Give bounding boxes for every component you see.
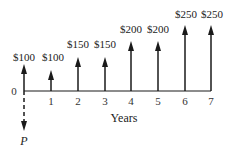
amount-year-6: $250 xyxy=(175,8,198,20)
tick-label-7: 7 xyxy=(208,95,214,107)
tick-label-6: 6 xyxy=(182,95,188,107)
axis-title: Years xyxy=(111,111,138,125)
cash-flow-diagram: 0 P $100 $100 $150 $150 $200 $200 $250 $… xyxy=(0,0,231,150)
amount-year-2: $150 xyxy=(67,38,90,50)
amount-year-5: $200 xyxy=(147,23,170,35)
tick-label-5: 5 xyxy=(155,95,161,107)
amount-year-0: $100 xyxy=(13,51,36,63)
amount-year-1: $100 xyxy=(42,51,65,63)
amount-year-7: $250 xyxy=(201,8,224,20)
present-value-arrowhead xyxy=(21,121,27,131)
tick-label-4: 4 xyxy=(128,95,134,107)
tick-label-1: 1 xyxy=(48,95,54,107)
origin-label: 0 xyxy=(11,85,17,97)
amount-year-3: $150 xyxy=(94,38,117,50)
present-value-label: P xyxy=(19,134,28,148)
tick-label-2: 2 xyxy=(75,95,81,107)
amount-year-4: $200 xyxy=(120,23,143,35)
tick-label-3: 3 xyxy=(102,95,108,107)
